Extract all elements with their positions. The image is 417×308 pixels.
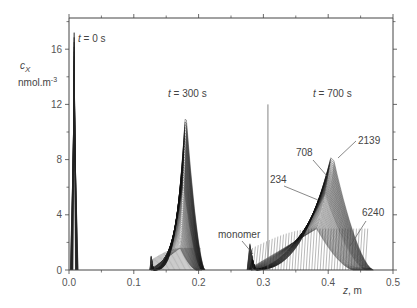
- annotation-6240: 6240: [362, 207, 385, 218]
- svg-text:0.1: 0.1: [127, 277, 141, 288]
- svg-text:0.3: 0.3: [256, 277, 270, 288]
- annotation-2139: 2139: [358, 135, 381, 146]
- annotation-t0: t = 0 s: [78, 33, 106, 44]
- svg-text:0.5: 0.5: [386, 277, 400, 288]
- y-axis-label: cX: [20, 60, 31, 74]
- y-axis-units: nmol.m-3: [18, 76, 57, 88]
- x-axis-label: z, m: [342, 285, 362, 296]
- svg-text:0: 0: [56, 265, 62, 276]
- svg-text:8: 8: [56, 154, 62, 165]
- concentration-profile-chart: 0.00.10.20.30.40.50481216 cX nmol.m-3 z,…: [0, 0, 417, 308]
- annotation-234: 234: [270, 174, 287, 185]
- svg-text:4: 4: [56, 209, 62, 220]
- annotation-t300: t = 300 s: [168, 88, 207, 99]
- svg-text:0.0: 0.0: [62, 277, 76, 288]
- svg-text:12: 12: [51, 99, 63, 110]
- svg-text:0.4: 0.4: [321, 277, 335, 288]
- annotation-monomer: monomer: [218, 229, 261, 240]
- annotation-708: 708: [296, 147, 313, 158]
- svg-text:0.2: 0.2: [192, 277, 206, 288]
- svg-text:16: 16: [51, 44, 63, 55]
- annotation-t700: t = 700 s: [313, 88, 352, 99]
